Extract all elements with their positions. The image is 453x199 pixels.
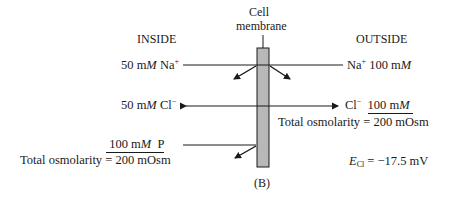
inside-p-value: 100 m [109, 137, 141, 151]
inside-osmolarity: Total osmolarity = 200 mOsm [20, 153, 171, 167]
inside-cl-charge: − [172, 97, 177, 106]
outside-cl-value: 100 m [368, 98, 400, 112]
inside-cl-value: 50 m [121, 98, 146, 112]
na-arrow-outward [270, 66, 290, 79]
cell-membrane [257, 48, 269, 167]
inside-na-charge: + [174, 57, 179, 66]
outside-label: OUTSIDE [356, 32, 407, 46]
outside-cl-concentration: 100 mM [368, 98, 413, 114]
p-arrow [235, 146, 256, 158]
outside-osmolarity: Total osmolarity = 200 mOsm [278, 115, 429, 129]
inside-na-value: 50 m [121, 58, 146, 72]
inside-p-unit: M [141, 137, 151, 151]
outside-cl-ion: Cl [345, 98, 357, 112]
inside-cl-unit: M [146, 98, 156, 112]
outside-cl-unit: M [399, 98, 409, 112]
inside-cl-ion: Cl [157, 98, 172, 112]
outside-na-label: Na+ 100 mM [347, 58, 411, 72]
inside-cl-label: 50 mM Cl− [121, 98, 176, 112]
inside-label: INSIDE [137, 32, 176, 46]
inside-na-ion: Na [157, 58, 175, 72]
inside-na-unit: M [146, 58, 156, 72]
outside-na-unit: M [401, 58, 411, 72]
inside-na-label: 50 mM Na+ [121, 58, 179, 72]
chloride-equilibrium-potential: ECl = −17.5 mV [349, 154, 428, 168]
panel-label: (B) [254, 176, 270, 190]
inside-p-label: 100 mM P [106, 137, 164, 151]
potential-symbol: E [349, 154, 357, 168]
outside-cl-label: Cl− 100 mM [345, 98, 413, 112]
membrane-label-line1: Cell [249, 5, 269, 19]
inside-p-fraction: 100 mM P [106, 137, 164, 153]
outside-na-ion: Na [347, 58, 362, 72]
inside-p-ion: P [151, 137, 164, 151]
outside-na-value: 100 m [366, 58, 401, 72]
na-arrow-inward [234, 66, 256, 79]
potential-value: = −17.5 mV [364, 154, 428, 168]
outside-cl-charge: − [357, 97, 362, 106]
membrane-label-line2: membrane [236, 19, 287, 33]
